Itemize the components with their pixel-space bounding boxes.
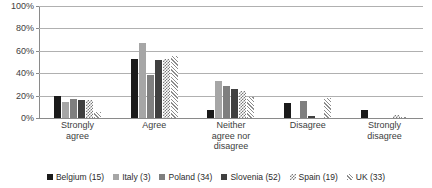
bar-group	[269, 6, 346, 118]
x-axis-category-label-line: agree nor	[193, 131, 270, 142]
bar[interactable]	[94, 112, 101, 118]
bar[interactable]	[70, 99, 77, 118]
bar-group	[193, 6, 270, 118]
legend-swatch-icon	[159, 174, 165, 180]
bar[interactable]	[62, 102, 69, 118]
bar[interactable]	[86, 100, 93, 118]
bar[interactable]	[215, 81, 222, 118]
x-axis-category-label: Disagree	[269, 120, 346, 131]
bar[interactable]	[54, 96, 61, 118]
bar-chart: 0%20%40%60%80%100% StronglyagreeAgreeNei…	[0, 0, 432, 188]
bar-groups	[39, 6, 423, 118]
legend-swatch-icon	[290, 174, 296, 180]
y-axis-labels: 0%20%40%60%80%100%	[0, 6, 37, 118]
x-axis-category-label-line: Strongly	[39, 120, 116, 131]
x-axis-category-label-line: disagree	[346, 131, 423, 142]
bar[interactable]	[131, 59, 138, 118]
y-axis-tick-label: 40%	[16, 69, 34, 78]
x-axis-category-label-line: disagree	[193, 141, 270, 152]
bar[interactable]	[284, 103, 291, 118]
x-axis-category-label-line: Agree	[116, 120, 193, 131]
y-axis-tick	[36, 118, 39, 119]
legend-item[interactable]: Poland (34)	[159, 173, 212, 182]
y-axis-tick-label: 0%	[21, 114, 34, 123]
legend-swatch-icon	[113, 174, 119, 180]
legend-item[interactable]: Spain (19)	[290, 173, 338, 182]
bar[interactable]	[147, 75, 154, 118]
bar[interactable]	[163, 59, 170, 118]
legend-item[interactable]: Slovenia (52)	[221, 173, 280, 182]
x-axis-labels: StronglyagreeAgreeNeitheragree nordisagr…	[39, 120, 423, 162]
bar[interactable]	[223, 86, 230, 118]
y-axis-tick-label: 20%	[16, 91, 34, 100]
x-axis-category-label: Agree	[116, 120, 193, 131]
bar-group-bars	[39, 6, 116, 118]
legend-item-label: UK (33)	[356, 173, 385, 182]
bar[interactable]	[78, 100, 85, 118]
bar[interactable]	[231, 89, 238, 118]
bar[interactable]	[239, 91, 246, 118]
chart-legend: Belgium (15)Italy (3)Poland (34)Slovenia…	[0, 168, 432, 186]
x-axis-category-label-line: Strongly	[346, 120, 423, 131]
bar[interactable]	[361, 110, 368, 118]
bar-group	[39, 6, 116, 118]
legend-swatch-icon	[47, 174, 53, 180]
legend-item-label: Poland (34)	[168, 173, 212, 182]
bar[interactable]	[393, 115, 400, 118]
x-axis-category-label: Stronglyagree	[39, 120, 116, 141]
bar-group	[346, 6, 423, 118]
bar[interactable]	[300, 101, 307, 118]
bar[interactable]	[324, 98, 331, 118]
x-axis-category-label-line: agree	[39, 131, 116, 142]
x-axis-category-label: Stronglydisagree	[346, 120, 423, 141]
bar[interactable]	[207, 110, 214, 118]
legend-item[interactable]: UK (33)	[347, 173, 385, 182]
axis-area	[39, 6, 423, 118]
bar[interactable]	[155, 60, 162, 118]
bar-group-bars	[193, 6, 270, 118]
legend-item-label: Spain (19)	[299, 173, 338, 182]
x-axis-category-label-line: Disagree	[269, 120, 346, 131]
x-axis-category-label-line: Neither	[193, 120, 270, 131]
legend-swatch-icon	[221, 174, 227, 180]
plot-area: 0%20%40%60%80%100%	[0, 6, 432, 118]
y-axis-tick-label: 80%	[16, 24, 34, 33]
gridline	[39, 118, 423, 119]
legend-item[interactable]: Italy (3)	[113, 173, 150, 182]
bar[interactable]	[139, 43, 146, 118]
y-axis-tick-label: 60%	[16, 46, 34, 55]
x-axis-category-label: Neitheragree nordisagree	[193, 120, 270, 152]
legend-item-label: Italy (3)	[122, 173, 150, 182]
legend-swatch-icon	[347, 174, 353, 180]
bar[interactable]	[308, 116, 315, 118]
bar-group-bars	[269, 6, 346, 118]
bar-group	[116, 6, 193, 118]
bar[interactable]	[247, 97, 254, 118]
legend-item[interactable]: Belgium (15)	[47, 173, 104, 182]
legend-item-label: Slovenia (52)	[230, 173, 280, 182]
legend-item-label: Belgium (15)	[56, 173, 104, 182]
bar-group-bars	[116, 6, 193, 118]
bar-group-bars	[346, 6, 423, 118]
bar[interactable]	[171, 56, 178, 118]
y-axis-tick-label: 100%	[11, 2, 34, 11]
bar[interactable]	[401, 117, 408, 118]
